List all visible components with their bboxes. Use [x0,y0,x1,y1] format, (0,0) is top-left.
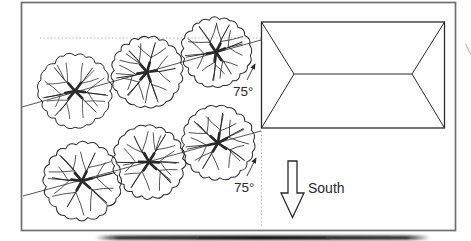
south-indicator: South [281,161,345,218]
angle-annotation-bottom: 75° [234,158,256,195]
tree-2 [97,22,198,123]
scan-edge-artifact [466,44,471,54]
angle-label-top: 75° [233,84,253,99]
angle-label-bottom: 75° [234,180,254,195]
building-outline [262,22,445,128]
tree-row-1 [37,5,263,128]
tree-6 [173,97,263,188]
tree-row-2 [37,97,263,226]
scan-shadow-band [95,236,430,240]
south-arrow-icon [281,161,304,218]
tree-row-line-2 [23,131,261,196]
tree-1 [37,53,112,128]
building [262,22,445,128]
angle-leader-arrow-top [247,64,255,80]
site-plan-figure: 75° 75° South [0,0,471,241]
angle-leader-arrow-bottom [247,158,256,176]
tree-trunk [73,89,77,93]
angle-annotation-top: 75° [233,64,255,99]
south-label: South [308,180,345,196]
